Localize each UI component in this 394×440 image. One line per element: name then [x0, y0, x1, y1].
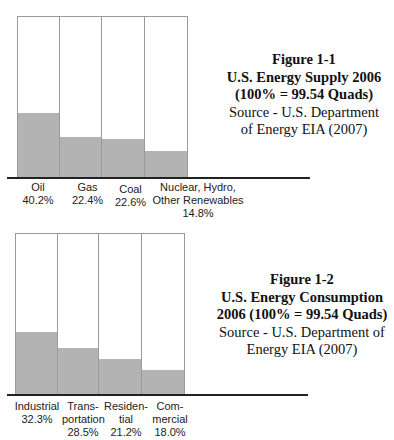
bar-fill	[99, 359, 141, 395]
x-axis-line	[7, 177, 310, 179]
bar-oil	[17, 16, 60, 178]
label-coal: Coal 22.6%	[109, 181, 152, 220]
bar-fill	[16, 332, 57, 395]
label-nuclear-hydro-renewables: Nuclear, Hydro, Other Renewables 14.8%	[152, 181, 244, 220]
bar-fill	[142, 370, 184, 395]
bar-coal	[101, 16, 145, 178]
label-industrial: Industrial 32.3%	[12, 400, 62, 439]
bar-fill	[60, 137, 101, 178]
bar-gas	[59, 16, 102, 178]
figure-1-1-caption: Figure 1-1 U.S. Energy Supply 2006 (100%…	[220, 51, 388, 139]
supply-bars	[17, 16, 188, 178]
label-transportation: Trans- portation 28.5%	[62, 400, 104, 439]
bar-nuclear-hydro-renewables	[144, 16, 188, 178]
consumption-bars	[15, 233, 185, 395]
x-axis-line	[7, 394, 308, 396]
bar-transportation	[57, 233, 99, 395]
bar-fill	[58, 348, 98, 395]
label-residential: Residen- tial 21.2%	[104, 400, 148, 439]
bar-fill	[18, 113, 59, 178]
figure-1-2-caption: Figure 1-2 U.S. Energy Consumption 2006 …	[212, 271, 392, 359]
bar-commercial	[141, 233, 185, 395]
consumption-labels: Industrial 32.3% Trans- portation 28.5% …	[12, 400, 192, 439]
figure-1-1: Oil 40.2% Gas 22.4% Coal 22.6% Nuclear, …	[0, 0, 394, 220]
bar-fill	[145, 151, 187, 178]
bar-residential	[98, 233, 142, 395]
figure-1-2: Industrial 32.3% Trans- portation 28.5% …	[0, 220, 394, 440]
bar-industrial	[15, 233, 58, 395]
label-oil: Oil 40.2%	[10, 181, 66, 220]
label-commercial: Com- mercial 18.0%	[148, 400, 192, 439]
label-gas: Gas 22.4%	[66, 181, 109, 220]
bar-fill	[102, 139, 144, 178]
supply-labels: Oil 40.2% Gas 22.4% Coal 22.6% Nuclear, …	[10, 181, 244, 220]
